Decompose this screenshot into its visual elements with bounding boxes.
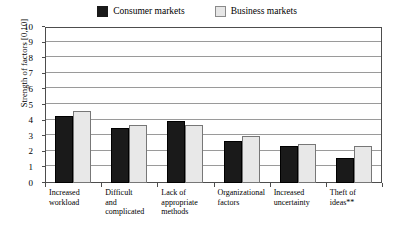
x-axis-labels: IncreasedworkloadDifficultandcomplicated…: [45, 188, 382, 227]
bar-business: [73, 111, 91, 183]
bar-group: [326, 27, 382, 183]
y-tick-label: 6: [13, 85, 33, 94]
bar-consumer: [280, 146, 298, 183]
x-axis-label-line: and: [105, 198, 157, 208]
bar-consumer: [224, 141, 242, 183]
x-tick-mark: [326, 183, 327, 187]
x-axis-label-line: Difficult: [105, 188, 157, 198]
y-tick-label: 1: [13, 163, 33, 172]
bar-group: [214, 27, 270, 183]
legend-swatch-light-square-icon: [215, 6, 226, 17]
bar-business: [185, 125, 203, 183]
x-axis-label: Organizationalfactors: [214, 188, 270, 227]
x-axis-label: Increasedworkload: [45, 188, 101, 227]
x-axis-label-line: appropriate: [161, 198, 213, 208]
bar-consumer: [55, 116, 73, 183]
bar-group: [101, 27, 157, 183]
bar-consumer: [111, 128, 129, 183]
x-tick-mark: [214, 183, 215, 187]
legend-entry-consumer-markets: Consumer markets: [97, 6, 185, 17]
bar-business: [242, 136, 260, 183]
x-axis-label-line: factors: [218, 198, 270, 208]
x-axis-label: Difficultandcomplicated: [101, 188, 157, 227]
x-axis-label-line: ideas**: [330, 198, 382, 208]
legend-entry-business-markets: Business markets: [215, 6, 297, 17]
x-axis-label: Increaseduncertainty: [270, 188, 326, 227]
y-tick-label: 7: [13, 69, 33, 78]
x-tick-mark: [270, 183, 271, 187]
x-axis-label-line: workload: [49, 198, 101, 208]
x-tick-mark: [101, 183, 102, 187]
x-axis-label-line: Theft of: [330, 188, 382, 198]
legend-swatch-dark-square-icon: [97, 6, 108, 17]
y-tick-label: 5: [13, 101, 33, 110]
bar-business: [129, 125, 147, 183]
legend-label-business-markets: Business markets: [231, 6, 297, 17]
x-axis-label: Lack ofappropriatemethods: [157, 188, 213, 227]
x-axis-label: Theft ofideas**: [326, 188, 382, 227]
bar-group: [270, 27, 326, 183]
chart-legend: Consumer markets Business markets: [0, 3, 394, 19]
y-tick-label: 4: [13, 116, 33, 125]
x-tick-mark: [45, 183, 46, 187]
y-tick-label: 8: [13, 54, 33, 63]
y-tick-label: 10: [13, 23, 33, 32]
x-axis-label-line: Increased: [274, 188, 326, 198]
y-tick-label: 2: [13, 147, 33, 156]
bar-group: [45, 27, 101, 183]
y-tick-label: 9: [13, 38, 33, 47]
x-tick-mark: [382, 183, 383, 187]
bar-business: [354, 146, 372, 183]
bar-business: [298, 144, 316, 183]
x-axis-label-line: complicated: [105, 207, 157, 217]
x-tick-mark: [157, 183, 158, 187]
x-axis-label-line: Lack of: [161, 188, 213, 198]
x-axis-label-line: methods: [161, 207, 213, 217]
y-tick-label: 3: [13, 132, 33, 141]
bar-group: [157, 27, 213, 183]
x-axis-label-line: uncertainty: [274, 198, 326, 208]
y-tick-label: 0: [13, 179, 33, 188]
x-axis-label-line: Organizational: [218, 188, 270, 198]
bars-layer: [45, 27, 382, 183]
bar-consumer: [336, 158, 354, 183]
x-axis: [45, 183, 382, 187]
bar-consumer: [167, 121, 185, 183]
x-axis-label-line: Increased: [49, 188, 101, 198]
legend-label-consumer-markets: Consumer markets: [113, 6, 185, 17]
